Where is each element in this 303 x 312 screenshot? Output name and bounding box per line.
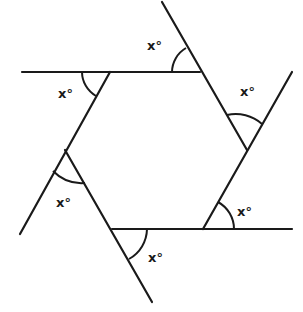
angle-label-top-right: x°: [147, 38, 162, 53]
angle-label-right: x°: [240, 84, 255, 99]
angle-label-bottom-right: x°: [237, 204, 252, 219]
hexagon-exterior-angles-diagram: x° x° x° x° x° x°: [0, 0, 303, 312]
angle-label-bottom-left: x°: [148, 250, 163, 265]
line-left-lower: [65, 150, 152, 302]
angle-label-left: x°: [56, 195, 71, 210]
angle-label-top-left: x°: [58, 86, 73, 101]
angle-arc-bottom-right: [218, 202, 234, 229]
angle-arc-top-left: [82, 72, 96, 96]
line-right-upper: [162, 2, 247, 150]
angle-arc-top-right: [172, 48, 186, 72]
angle-arc-bottom-left: [129, 229, 147, 259]
